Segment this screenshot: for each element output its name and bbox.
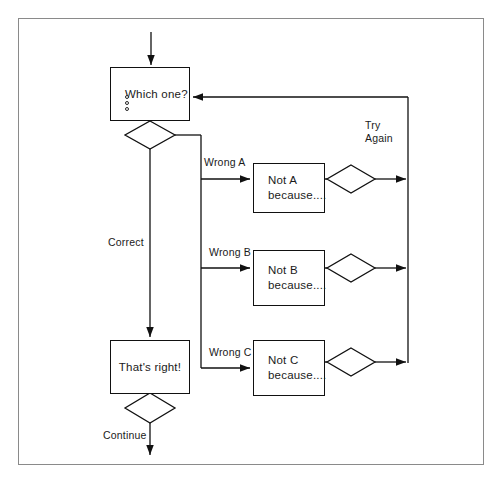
edge-label-try-again-line2: Again [365,132,393,145]
node-not-a-line1: Not A [268,173,324,188]
flowchart-connectors [0,0,502,486]
edge-label-wrong-a: Wrong A [204,156,245,169]
node-question-label: Which one? [125,87,189,102]
flowchart-canvas: Which one? Not A because.... Not B becau… [0,0,502,486]
edge-label-continue: Continue [103,429,147,442]
question-options-radio-group[interactable] [125,95,129,111]
node-not-c[interactable]: Not C because.... [253,340,325,396]
node-thats-right[interactable]: That's right! [110,340,190,394]
node-not-a-line2: because.... [268,188,324,203]
node-thats-right-label: That's right! [119,360,181,375]
decision-question [125,121,175,149]
radio-option-3[interactable] [125,107,129,111]
node-not-c-line2: because.... [268,368,324,383]
decision-retry-c [327,348,375,376]
node-not-c-line1: Not C [268,353,324,368]
node-not-b-line2: because.... [268,278,324,293]
edge-label-correct: Correct [108,236,144,249]
decision-retry-a [327,165,375,193]
node-not-a[interactable]: Not A because.... [253,163,325,213]
node-not-b-line1: Not B [268,263,324,278]
node-question[interactable]: Which one? [110,67,190,121]
node-not-b[interactable]: Not B because.... [253,250,325,306]
edge-label-try-again-line1: Try [365,119,380,132]
decision-retry-b [327,254,375,282]
edge-label-wrong-b: Wrong B [209,246,251,259]
radio-option-2[interactable] [125,101,129,105]
radio-option-1[interactable] [125,95,129,99]
edge-label-wrong-c: Wrong C [209,346,252,359]
decision-continue [125,393,175,423]
